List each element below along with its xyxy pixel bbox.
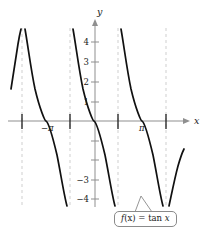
callout-leader xyxy=(135,196,152,212)
tan-branch xyxy=(11,29,21,89)
callout-pointer xyxy=(135,196,152,212)
tan-branch xyxy=(25,29,67,206)
x-tick-label-pi: π xyxy=(139,124,145,133)
callout-equals: = xyxy=(136,213,149,223)
x-axis-arrowhead xyxy=(183,118,190,124)
y-tick-label-neg4: −4 xyxy=(74,195,89,204)
function-callout-label: f(x) = tan x xyxy=(114,211,177,227)
x-axis-name: x xyxy=(194,116,199,126)
y-axis-name: y xyxy=(97,7,102,17)
y-tick-label-4: 4 xyxy=(78,38,89,47)
x-tick-label-neg-pi: −π xyxy=(41,124,54,133)
tan-branch xyxy=(121,29,163,206)
tan-branch xyxy=(169,149,184,206)
callout-arg: x xyxy=(162,213,170,223)
callout-tan: tan xyxy=(148,213,162,223)
tan-curve xyxy=(11,29,184,206)
y-tick-label-2: 2 xyxy=(78,78,89,87)
tangent-function-graph: 4 3 2 1 −3 −4 −π π y x f(x) = tan x xyxy=(0,0,207,241)
y-axis-arrowhead xyxy=(92,19,98,26)
y-tick-label-neg3: −3 xyxy=(74,176,89,185)
callout-paren: (x) xyxy=(124,213,135,223)
y-tick-label-3: 3 xyxy=(78,58,89,67)
y-tick-label-1: 1 xyxy=(78,98,89,107)
plot-canvas xyxy=(0,0,207,241)
